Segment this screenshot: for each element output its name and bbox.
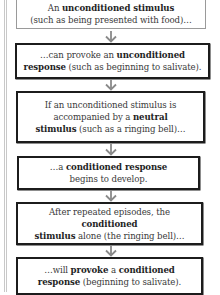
down-arrow-icon	[104, 79, 118, 91]
down-arrow-icon	[104, 190, 118, 202]
step-6-line-1: …will provoke a conditioned	[38, 264, 181, 276]
step-4-line-2: begins to develop.	[50, 173, 167, 185]
step-3-line-2: accompanied by a neutral	[35, 111, 185, 123]
step-5-line-2: stimulus alone (the ringing bell)…	[22, 230, 197, 242]
step-5-line-1: After repeated episodes, the conditioned	[22, 206, 197, 230]
flow-step-6-conditioned-response: …will provoke a conditioned response (be…	[16, 257, 203, 295]
step-1-line-1: An unconditioned stimulus	[30, 2, 191, 14]
flow-step-2-unconditioned-response: …can provoke an unconditioned response (…	[15, 43, 210, 79]
step-2-line-1: …can provoke an unconditioned	[24, 49, 202, 61]
step-3-line-3: stimulus (such as a ringing bell)…	[35, 123, 185, 135]
step-4-line-1: …a conditioned response	[50, 161, 167, 173]
flow-step-1-unconditioned-stimulus: An unconditioned stimulus (such as being…	[16, 0, 206, 29]
step-3-line-1: If an unconditioned stimulus is	[35, 99, 185, 111]
step-6-line-2: response (beginning to salivate).	[38, 276, 181, 288]
down-arrow-icon	[104, 245, 118, 257]
flow-step-3-neutral-stimulus: If an unconditioned stimulus is accompan…	[16, 91, 205, 143]
down-arrow-icon	[104, 31, 118, 43]
step-2-line-2: response (such as beginning to salivate)…	[24, 61, 202, 73]
flow-step-4-conditioned-response-develops: …a conditioned response begins to develo…	[17, 156, 200, 190]
down-arrow-icon	[104, 144, 118, 156]
page-margin-line	[4, 0, 7, 292]
flow-step-5-conditioned-stimulus: After repeated episodes, the conditioned…	[16, 202, 203, 245]
step-1-line-2: (such as being presented with food)…	[30, 14, 191, 26]
